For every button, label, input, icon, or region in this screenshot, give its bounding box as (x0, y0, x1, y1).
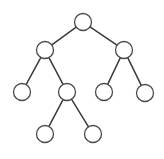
tree-edge (128, 58, 142, 86)
tree-node (85, 126, 102, 143)
tree-node-layer (14, 14, 154, 143)
tree-node (116, 42, 133, 59)
tree-node (137, 85, 154, 102)
tree-edge (49, 58, 63, 85)
tree-node (75, 14, 92, 31)
tree-node (37, 126, 54, 143)
tree-edge (26, 57, 41, 84)
tree-edge (71, 99, 88, 127)
tree-edge (90, 27, 117, 45)
tree-node (59, 84, 76, 101)
tree-edge (108, 58, 121, 85)
tree-node (14, 84, 31, 101)
tree-node (37, 42, 54, 59)
tree-diagram-figure (0, 0, 164, 159)
tree-edge (49, 100, 63, 127)
tree-edge (52, 27, 76, 45)
tree-node (96, 84, 113, 101)
tree-diagram-canvas (0, 0, 164, 159)
